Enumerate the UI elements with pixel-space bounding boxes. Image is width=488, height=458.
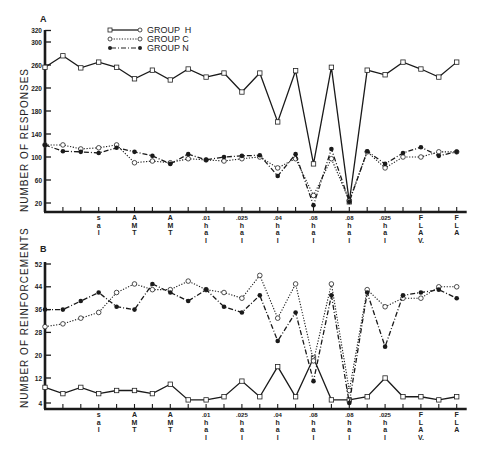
x-tick-label: a xyxy=(240,229,244,236)
data-point-marker xyxy=(419,155,424,160)
data-point-marker xyxy=(61,149,66,154)
x-tick-label: .025 xyxy=(379,412,391,418)
data-point-marker xyxy=(240,310,245,315)
x-tick-label: l xyxy=(277,434,279,441)
x-tick-label: h xyxy=(240,419,244,426)
data-point-marker xyxy=(311,193,316,198)
x-tick-label: .04 xyxy=(274,412,283,418)
square-marker-icon xyxy=(108,28,112,32)
series-line xyxy=(45,145,457,201)
data-point-marker xyxy=(275,174,280,179)
x-tick-label: l xyxy=(277,237,279,244)
y-tick-label: 52 xyxy=(35,261,43,268)
x-tick-label: h xyxy=(347,222,351,229)
open-circle-marker-icon xyxy=(138,37,142,41)
x-tick-label: a xyxy=(97,222,101,229)
x-tick-label: A xyxy=(132,411,137,418)
circle-marker-icon xyxy=(138,28,142,32)
data-point-marker xyxy=(365,395,369,399)
y-tick-label: 220 xyxy=(31,85,42,92)
data-point-marker xyxy=(383,344,388,349)
x-tick-label: .01 xyxy=(202,215,211,221)
data-point-marker xyxy=(311,379,316,384)
open-circle-marker-icon xyxy=(108,37,112,41)
x-tick-label: s xyxy=(97,214,101,221)
x-tick-label: l xyxy=(98,426,100,433)
data-point-marker xyxy=(168,78,172,82)
data-point-marker xyxy=(96,151,101,156)
x-tick-label: l xyxy=(348,434,350,441)
data-point-marker xyxy=(258,395,262,399)
data-point-marker xyxy=(293,152,298,157)
y-tick-label: 140 xyxy=(31,131,42,138)
data-point-marker xyxy=(204,158,209,163)
data-point-marker xyxy=(365,149,370,154)
data-point-marker xyxy=(455,395,459,399)
x-tick-label: .08 xyxy=(345,215,354,221)
data-point-marker xyxy=(329,398,333,402)
series-a xyxy=(43,54,459,208)
data-point-marker xyxy=(437,398,441,402)
data-point-marker xyxy=(383,73,387,77)
data-point-marker xyxy=(222,71,226,75)
filled-circle-marker-icon xyxy=(138,46,142,50)
x-tick-label: h xyxy=(276,222,280,229)
x-tick-label: h xyxy=(240,222,244,229)
data-point-marker xyxy=(61,54,65,58)
x-tick-label: a xyxy=(204,229,208,236)
y-tick-label: 44 xyxy=(35,283,43,290)
data-point-marker xyxy=(401,293,406,298)
x-tick-label: a xyxy=(97,419,101,426)
data-point-marker xyxy=(186,279,191,284)
data-point-marker xyxy=(132,150,137,155)
data-point-marker xyxy=(150,391,154,395)
series-line xyxy=(45,275,457,390)
data-point-marker xyxy=(96,146,101,151)
data-point-marker xyxy=(43,143,48,148)
data-point-marker xyxy=(401,60,405,64)
data-point-marker xyxy=(132,388,136,392)
x-tick-label: l xyxy=(241,237,243,244)
data-point-marker xyxy=(61,307,66,312)
x-tick-label: .025 xyxy=(379,215,391,221)
y-tick-label: 100 xyxy=(31,154,42,161)
data-point-marker xyxy=(437,154,442,159)
data-point-marker xyxy=(222,155,227,160)
x-tick-label: l xyxy=(205,237,207,244)
data-point-marker xyxy=(293,282,298,287)
x-tick-label: h xyxy=(311,419,315,426)
series-line xyxy=(45,358,457,400)
data-point-marker xyxy=(61,143,66,148)
data-point-marker xyxy=(150,68,154,72)
data-point-marker xyxy=(240,90,244,94)
x-tick-label: a xyxy=(383,229,387,236)
figure: A NUMBER OF RESPONSES 206010014018022026… xyxy=(0,0,488,458)
x-tick-label: A xyxy=(168,411,173,418)
data-point-marker xyxy=(96,310,101,315)
data-point-marker xyxy=(168,290,173,295)
x-tick-label: a xyxy=(276,426,280,433)
x-tick-label: T xyxy=(132,229,137,236)
x-tick-label: F xyxy=(455,214,460,221)
data-point-marker xyxy=(61,322,66,327)
x-tick-label: l xyxy=(384,434,386,441)
x-tick-label: A xyxy=(454,229,459,236)
x-tick-label: l xyxy=(98,229,100,236)
data-point-marker xyxy=(79,316,84,321)
x-tick-label: h xyxy=(383,222,387,229)
data-point-marker xyxy=(96,290,101,295)
x-tick-label: L xyxy=(455,419,460,426)
y-tick-label: 300 xyxy=(31,39,42,46)
data-point-marker xyxy=(365,290,370,295)
panel-a-responses-chart: A NUMBER OF RESPONSES 206010014018022026… xyxy=(19,14,467,244)
data-point-marker xyxy=(132,282,137,287)
data-point-marker xyxy=(419,395,423,399)
data-point-marker xyxy=(186,152,191,157)
data-point-marker xyxy=(419,145,424,150)
x-tick-label: a xyxy=(347,229,351,236)
data-point-marker xyxy=(79,150,84,155)
x-tick-label: l xyxy=(384,237,386,244)
data-point-marker xyxy=(150,154,155,159)
x-tick-label: l xyxy=(241,434,243,441)
data-point-marker xyxy=(293,310,298,315)
